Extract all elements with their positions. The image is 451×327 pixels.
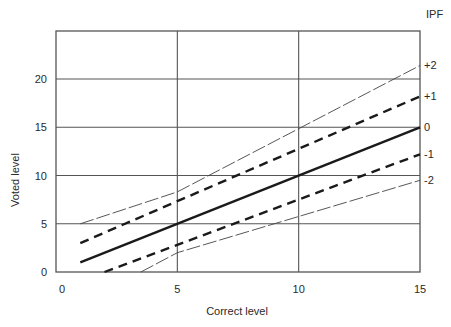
ipf-label: +1 [424, 90, 437, 102]
x-tick-label: 15 [414, 283, 426, 295]
x-tick-label: 5 [174, 283, 180, 295]
x-tick-label: 10 [293, 283, 305, 295]
series-line-ipf-minus2 [141, 180, 420, 272]
ipf-label: +2 [424, 59, 437, 71]
y-tick-label: 20 [35, 73, 47, 85]
series-lines [80, 66, 420, 273]
series-line-ipf-plus2 [80, 66, 420, 224]
axis-ticks: 05101505101520 [35, 73, 426, 295]
y-tick-label: 15 [35, 121, 47, 133]
x-axis-label: Correct level [206, 305, 268, 317]
chart: 05101505101520 +2+10-1-2 IPF Correct lev… [0, 0, 451, 327]
plot-frame [56, 31, 420, 272]
y-tick-label: 5 [41, 218, 47, 230]
grid [56, 31, 420, 272]
ipf-labels: +2+10-1-2 [424, 59, 437, 186]
ipf-label: -2 [424, 174, 434, 186]
series-line-ipf-plus1 [80, 96, 420, 243]
x-tick-label: 0 [59, 283, 65, 295]
y-tick-label: 10 [35, 170, 47, 182]
legend-title: IPF [426, 8, 443, 20]
y-tick-label: 0 [41, 266, 47, 278]
y-axis-label: Voted level [9, 153, 21, 207]
ipf-label: 0 [424, 121, 430, 133]
ipf-label: -1 [424, 148, 434, 160]
series-line-ipf-0 [80, 127, 420, 262]
